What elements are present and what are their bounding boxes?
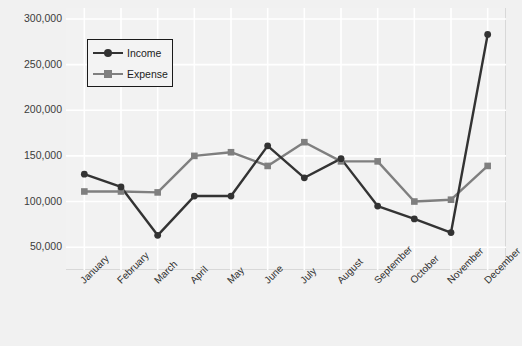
legend-marker-circle-icon — [104, 49, 112, 57]
data-point-expense-january — [81, 188, 88, 195]
series-expense-markers — [81, 139, 491, 205]
data-point-income-february — [118, 184, 125, 191]
data-point-income-march — [154, 232, 161, 239]
data-point-income-january — [81, 171, 88, 178]
data-point-income-april — [191, 193, 198, 200]
y-axis-tick-label: 50,000 — [2, 241, 62, 252]
legend-item-expense: Expense — [93, 64, 168, 84]
series-path-expense — [84, 142, 487, 201]
y-axis-tick-label: 150,000 — [2, 150, 62, 161]
legend-swatch-income — [93, 46, 123, 60]
legend-swatch-expense — [93, 67, 123, 81]
legend-item-income: Income — [93, 43, 161, 63]
data-point-income-august — [338, 155, 345, 162]
y-axis-tick-label: 250,000 — [2, 59, 62, 70]
data-point-expense-september — [374, 158, 381, 165]
data-point-expense-march — [154, 189, 161, 196]
data-point-expense-december — [484, 163, 491, 170]
data-point-expense-june — [264, 163, 271, 170]
y-axis-tick-label: 200,000 — [2, 104, 62, 115]
chart-legend: Income Expense — [87, 39, 173, 87]
data-point-expense-may — [228, 149, 235, 156]
data-point-income-september — [374, 203, 381, 210]
legend-label-expense: Expense — [127, 68, 168, 80]
data-point-income-november — [448, 229, 455, 236]
data-point-expense-november — [448, 196, 455, 203]
data-point-income-july — [301, 174, 308, 181]
legend-label-income: Income — [127, 47, 161, 59]
y-axis-tick-label: 300,000 — [2, 13, 62, 24]
data-point-expense-october — [411, 198, 418, 205]
y-axis-tick-label: 100,000 — [2, 196, 62, 207]
y-axis: 50,000100,000150,000200,000250,000300,00… — [0, 0, 62, 346]
data-point-expense-july — [301, 139, 308, 146]
legend-marker-square-icon — [104, 70, 112, 78]
data-point-income-may — [228, 193, 235, 200]
data-point-income-june — [264, 142, 271, 149]
series-expense-line — [84, 142, 487, 201]
data-point-income-december — [484, 31, 491, 38]
data-point-income-october — [411, 215, 418, 222]
data-point-expense-april — [191, 153, 198, 160]
